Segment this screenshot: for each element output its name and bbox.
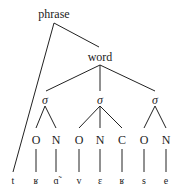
edge-sigma3-n bbox=[155, 106, 166, 128]
segment-epsilon: ɛ bbox=[98, 175, 102, 186]
node-onset-2: O bbox=[75, 133, 84, 147]
segment-r2: ʁ bbox=[120, 175, 125, 186]
edge-sigma1-n bbox=[45, 106, 56, 128]
node-sigma3: σ bbox=[152, 93, 159, 107]
segment-e: e bbox=[164, 175, 169, 186]
node-nucleus-1: N bbox=[52, 133, 61, 147]
edge-phrase-word bbox=[54, 23, 99, 47]
node-onset-1: O bbox=[32, 133, 41, 147]
node-sigma1: σ bbox=[42, 93, 49, 107]
edge-sigma2-o bbox=[79, 106, 100, 128]
segment-t: t bbox=[12, 175, 15, 186]
tree-labels: phrase word σ σ σ O N O N C O N t ʁ ɑ̃ v… bbox=[12, 7, 171, 186]
segment-s: s bbox=[142, 175, 146, 186]
prosodic-tree-diagram: phrase word σ σ σ O N O N C O N t ʁ ɑ̃ v… bbox=[0, 0, 181, 195]
node-nucleus-2: N bbox=[96, 133, 105, 147]
segment-a-nasal: ɑ̃ bbox=[53, 175, 62, 186]
node-onset-3: O bbox=[140, 133, 149, 147]
node-phrase: phrase bbox=[38, 7, 69, 21]
node-nucleus-3: N bbox=[162, 133, 171, 147]
edge-word-sigma3 bbox=[100, 65, 155, 91]
edge-word-sigma1 bbox=[46, 65, 100, 91]
segment-v: v bbox=[77, 175, 82, 186]
edge-sigma1-o bbox=[36, 106, 45, 128]
edge-sigma3-o bbox=[144, 106, 155, 128]
edge-sigma2-c bbox=[100, 106, 122, 128]
node-sigma2: σ bbox=[97, 93, 104, 107]
tree-edges bbox=[13, 23, 166, 172]
segment-r1: ʁ bbox=[34, 175, 39, 186]
node-coda-2: C bbox=[118, 133, 126, 147]
node-word: word bbox=[88, 50, 113, 64]
